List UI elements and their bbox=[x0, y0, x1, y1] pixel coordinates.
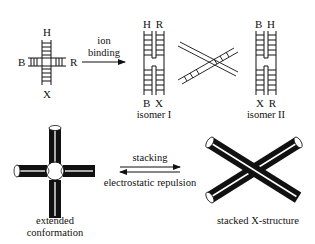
junction-label-b: B bbox=[18, 56, 25, 68]
extended-caption-line1: extended bbox=[20, 215, 90, 227]
stacking-label: stacking bbox=[120, 152, 180, 164]
isomer-2-top-labels: B H bbox=[255, 18, 276, 30]
binding-label: binding bbox=[82, 47, 126, 59]
electrostatic-repulsion-label: electrostatic repulsion bbox=[100, 177, 200, 189]
stacked-x-structure-icon bbox=[204, 136, 304, 204]
isomer-1-ladder-icon bbox=[144, 31, 164, 95]
isomer-1-bottom-labels: B X bbox=[143, 97, 164, 109]
junction-label-h: H bbox=[43, 26, 51, 38]
extended-conformation-icon bbox=[14, 126, 95, 219]
isomer-1-caption: isomer I bbox=[130, 109, 178, 121]
crossed-helices-icon bbox=[178, 42, 238, 84]
junction-label-r: R bbox=[70, 56, 77, 68]
isomer-1-top-labels: H R bbox=[143, 18, 164, 30]
ion-label: ion bbox=[82, 35, 126, 47]
isomer-2-bottom-labels: X R bbox=[256, 97, 277, 109]
four-way-junction-icon bbox=[28, 40, 66, 85]
junction-label-x: X bbox=[43, 88, 51, 100]
isomer-2-ladder-icon bbox=[256, 31, 276, 95]
isomer-2-caption: isomer II bbox=[240, 109, 292, 121]
stacked-x-caption: stacked X-structure bbox=[208, 215, 308, 227]
extended-caption-line2: conformation bbox=[20, 227, 90, 239]
